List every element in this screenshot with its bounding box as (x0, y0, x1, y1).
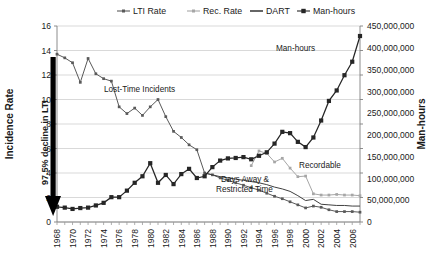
data-point (311, 135, 315, 139)
data-point (188, 143, 191, 146)
data-point (289, 167, 292, 170)
data-point (335, 88, 339, 92)
data-point (140, 174, 144, 178)
x-tick-label: 1986 (192, 229, 202, 248)
data-point (87, 57, 90, 60)
decline-arrow-label: 97.5% decline in LTI (40, 100, 50, 185)
data-point (94, 203, 98, 207)
legend-label: Man-hours (313, 6, 356, 16)
data-point (117, 195, 121, 199)
data-point (164, 115, 167, 118)
data-point (133, 181, 137, 185)
y2-tick-label: 400,000,000 (367, 43, 415, 53)
data-point (250, 164, 253, 167)
data-point (359, 194, 362, 197)
data-point (164, 173, 168, 177)
data-point (71, 61, 74, 64)
data-point (203, 174, 207, 178)
data-point (350, 60, 354, 64)
x-tick-label: 1976 (114, 229, 124, 248)
annotation-days-away-line2: Restricted Time (216, 185, 273, 194)
data-point (343, 194, 346, 197)
data-point (63, 206, 67, 210)
y-axis-title: Incidence Rate (4, 88, 15, 159)
data-point (312, 205, 315, 208)
data-point (171, 182, 175, 186)
data-point (86, 206, 90, 210)
data-point (296, 140, 300, 144)
x-tick-label: 2000 (301, 229, 311, 248)
data-point (102, 201, 106, 205)
data-point (218, 158, 222, 162)
data-point (320, 206, 323, 209)
data-point (118, 106, 121, 109)
y2-tick-label: 0 (367, 217, 372, 227)
data-point (157, 98, 160, 101)
data-point (79, 81, 82, 84)
data-point (94, 72, 97, 75)
x-tick-label: 1982 (161, 229, 171, 248)
data-point (187, 167, 191, 171)
decline-arrow-shaft (51, 57, 56, 203)
chart-legend: LTI RateRec. RateDARTMan-hours (117, 6, 356, 16)
y2-tick-label: 300,000,000 (367, 87, 415, 97)
y-tick-label: 16 (42, 21, 52, 31)
x-tick-label: 1998 (285, 229, 295, 248)
data-point (335, 210, 338, 213)
data-point (273, 195, 276, 198)
x-tick-label: 1990 (223, 229, 233, 248)
data-point (265, 150, 269, 154)
data-point (156, 181, 160, 185)
data-point (56, 53, 59, 56)
x-tick-label: 1992 (239, 229, 249, 248)
x-tick-label: 2004 (332, 229, 342, 248)
data-point (179, 172, 183, 176)
data-point (296, 204, 299, 207)
y-tick-label: 14 (42, 46, 52, 56)
legend-marker-square (192, 10, 195, 13)
data-point (149, 106, 152, 109)
y2-axis-title: Man-hours (416, 98, 427, 150)
data-point (359, 211, 362, 214)
data-point (226, 156, 230, 160)
x-tick-label: 1996 (270, 229, 280, 248)
legend-label: DART (266, 6, 290, 16)
data-point (343, 210, 346, 213)
data-point (272, 142, 276, 146)
data-point (141, 114, 144, 117)
annotation-man-hours: Man-hours (276, 44, 315, 53)
data-point (335, 193, 338, 196)
x-tick-label: 1974 (99, 229, 109, 248)
data-point (358, 34, 362, 38)
data-point (280, 130, 284, 134)
y2-tick-label: 200,000,000 (367, 130, 415, 140)
y2-tick-label: 250,000,000 (367, 108, 415, 118)
data-point (351, 194, 354, 197)
data-point (319, 118, 323, 122)
data-point (234, 156, 238, 160)
x-tick-label: 1984 (177, 229, 187, 248)
data-point (195, 148, 198, 151)
data-point (281, 157, 284, 160)
data-point (281, 197, 284, 200)
x-tick-label: 1994 (254, 229, 264, 248)
data-point (148, 161, 152, 165)
data-point (312, 192, 315, 195)
data-point (351, 210, 354, 213)
data-point (258, 150, 261, 153)
data-point (63, 57, 66, 60)
data-point (109, 195, 113, 199)
y2-tick-label: 100,000,000 (367, 174, 415, 184)
annotation-recordable: Recordable (299, 161, 341, 170)
data-point (133, 107, 136, 110)
data-point (102, 77, 105, 80)
legend-marker-square (122, 10, 125, 13)
legend-label: LTI Rate (133, 6, 166, 16)
data-point (273, 161, 276, 164)
data-point (288, 131, 292, 135)
annotation-lost-time-incidents: Lost-Time Incidents (104, 85, 175, 94)
data-point (210, 165, 214, 169)
data-point (304, 145, 308, 149)
x-tick-label: 1972 (83, 229, 93, 248)
y2-tick-label: 50,000,000 (367, 195, 410, 205)
